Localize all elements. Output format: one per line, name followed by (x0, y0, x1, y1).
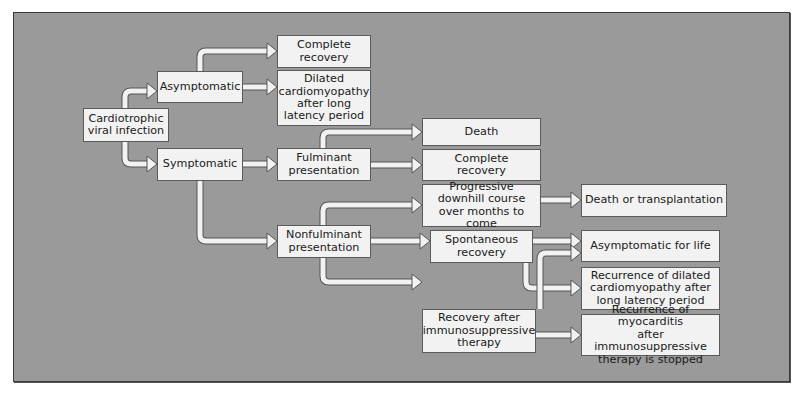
arrowhead-icon (267, 233, 277, 249)
arrow-nonfulminant-spontaneous (371, 233, 430, 249)
arrow-asymptomatic-dilated (243, 79, 277, 95)
node-complete-recovery-1: Complete recovery (277, 35, 371, 68)
arrow-nonfulminant-lower (323, 258, 422, 290)
arrow-symptomatic-nonfulminant (200, 181, 277, 249)
arrow-immuno-asymptomatic-life (540, 245, 581, 309)
arrowhead-icon (147, 156, 157, 172)
arrow-fulminant-death (323, 124, 422, 148)
node-recurrence-myocarditis: Recurrence of myocarditis after immunosu… (581, 314, 720, 356)
arrowhead-icon (412, 274, 422, 290)
arrowhead-icon (571, 192, 581, 208)
arrowhead-icon (267, 156, 277, 172)
arrow-spontaneous-recurrence-dilated (526, 263, 581, 296)
node-viral-infection: Cardiotrophic viral infection (83, 108, 169, 142)
arrow-progressive-death-transplant (541, 192, 581, 208)
arrowhead-icon (571, 245, 581, 261)
arrowhead-icon (420, 233, 430, 249)
arrow-infection-asymptomatic (125, 83, 157, 108)
node-death-or-transplantation: Death or transplantation (581, 184, 727, 217)
arrowhead-icon (412, 197, 422, 213)
arrowhead-icon (147, 83, 157, 99)
node-symptomatic: Symptomatic (157, 148, 243, 181)
arrowhead-icon (412, 124, 422, 140)
node-dilated-cardiomyopathy: Dilated cardiomyopathy after long latenc… (277, 70, 371, 126)
arrow-immuno-recurrence-myocarditis (536, 327, 581, 343)
node-death: Death (422, 118, 541, 146)
node-asymptomatic: Asymptomatic (157, 71, 243, 103)
arrowhead-icon (267, 43, 277, 59)
node-nonfulminant: Nonfulminant presentation (277, 225, 371, 258)
arrow-nonfulminant-progressive (323, 197, 422, 225)
arrowhead-icon (267, 79, 277, 95)
arrow-asymptomatic-complete-recovery (200, 43, 277, 71)
arrow-symptomatic-fulminant (243, 156, 277, 172)
arrow-infection-symptomatic (125, 141, 157, 172)
node-asymptomatic-for-life: Asymptomatic for life (581, 230, 720, 262)
arrowhead-icon (412, 157, 422, 173)
node-recovery-immunosuppressive: Recovery after immunosuppressive therapy (422, 309, 536, 353)
node-progressive-course: Progressive downhill course over months … (422, 184, 541, 227)
arrowhead-icon (571, 327, 581, 343)
node-fulminant: Fulminant presentation (277, 148, 371, 181)
node-spontaneous-recovery: Spontaneous recovery (430, 230, 533, 263)
arrow-fulminant-complete-recovery (371, 157, 422, 173)
node-complete-recovery-2: Complete recovery (422, 149, 541, 181)
arrowhead-icon (571, 280, 581, 296)
